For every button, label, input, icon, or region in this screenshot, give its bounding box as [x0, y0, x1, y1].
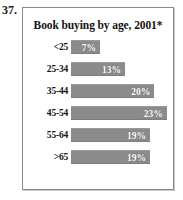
chart-panel: Book buying by age, 2001* <257%25-3413%3…: [22, 7, 174, 190]
bar-track: 23%: [71, 106, 175, 120]
bar-track: 20%: [71, 84, 175, 98]
bar-fill: 13%: [71, 62, 125, 76]
bar-value-label: 20%: [131, 85, 150, 99]
bar-value-label: 19%: [127, 129, 146, 143]
bar-value-label: 13%: [102, 63, 121, 77]
bar-value-label: 23%: [144, 107, 163, 121]
bar-track: 7%: [71, 40, 175, 54]
bar-fill: 23%: [71, 106, 167, 120]
figure-container: 37. Book buying by age, 2001* <257%25-34…: [0, 0, 183, 200]
bar-fill: 19%: [71, 150, 150, 164]
bar-row: <257%: [23, 40, 175, 54]
category-label: 35-44: [23, 84, 68, 98]
bar-track: 19%: [71, 150, 175, 164]
bar-track: 13%: [71, 62, 175, 76]
category-label: 55-64: [23, 128, 68, 142]
bar-value-label: 7%: [82, 41, 96, 55]
bar-row: 35-4420%: [23, 84, 175, 98]
bar-value-label: 19%: [127, 151, 146, 165]
category-label: >65: [23, 150, 68, 164]
bar-row: 55-6419%: [23, 128, 175, 142]
figure-number-label: 37.: [2, 3, 17, 18]
bar-fill: 7%: [71, 40, 100, 54]
bar-track: 19%: [71, 128, 175, 142]
category-label: <25: [23, 40, 68, 54]
chart-title: Book buying by age, 2001*: [23, 19, 173, 31]
category-label: 25-34: [23, 62, 68, 76]
plot-area: <257%25-3413%35-4420%45-5423%55-6419%>65…: [23, 38, 175, 188]
bar-row: >6519%: [23, 150, 175, 164]
category-label: 45-54: [23, 106, 68, 120]
bar-fill: 20%: [71, 84, 154, 98]
bar-row: 25-3413%: [23, 62, 175, 76]
bar-fill: 19%: [71, 128, 150, 142]
bar-row: 45-5423%: [23, 106, 175, 120]
